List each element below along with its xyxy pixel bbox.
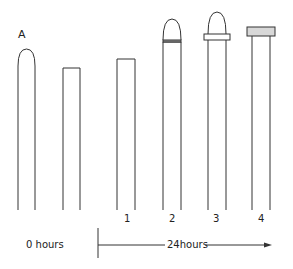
column-decapitated-0h xyxy=(63,68,80,210)
time-label-start: 0 hours xyxy=(26,239,64,250)
panel-label: A xyxy=(18,28,26,41)
column-3 xyxy=(204,12,230,210)
column-label-1: 1 xyxy=(124,213,130,224)
coleoptile-diagram: A 1 2 3 4 0 hours 24hours xyxy=(0,0,293,269)
column-4 xyxy=(247,27,275,210)
time-label-end: 24hours xyxy=(167,239,208,250)
column-label-2: 2 xyxy=(169,213,175,224)
column-2 xyxy=(163,19,181,210)
column-intact xyxy=(18,49,35,210)
column-label-4: 4 xyxy=(258,213,264,224)
column-1 xyxy=(117,59,135,210)
column-label-3: 3 xyxy=(213,213,219,224)
